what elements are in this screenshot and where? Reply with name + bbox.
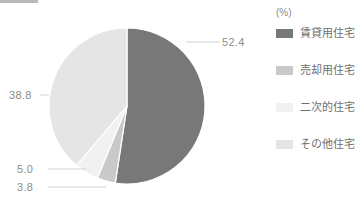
pie-chart-area: 52.4 38.8 5.0 3.8	[0, 0, 265, 201]
legend-label-rental: 賃貸用住宅	[300, 28, 355, 39]
legend-unit-label: (%)	[276, 7, 292, 18]
value-label-for-sale: 3.8	[17, 181, 33, 193]
legend-item-rental[interactable]: 賃貸用住宅	[276, 26, 355, 40]
legend-label-secondary: 二次的住宅	[300, 102, 355, 113]
legend-swatch-other	[276, 140, 293, 149]
legend-item-secondary[interactable]: 二次的住宅	[276, 100, 355, 114]
value-label-other: 38.8	[9, 89, 32, 101]
chart-legend: (%) 賃貸用住宅 売却用住宅 二次的住宅 その他住宅	[272, 0, 363, 201]
legend-swatch-rental	[276, 29, 293, 38]
value-label-secondary: 5.0	[17, 163, 33, 175]
pie-slices	[49, 28, 205, 184]
legend-item-for-sale[interactable]: 売却用住宅	[276, 63, 355, 77]
legend-label-for-sale: 売却用住宅	[300, 65, 355, 76]
pie-chart-svg	[0, 0, 265, 201]
pie-slice-rental	[115, 28, 205, 184]
legend-item-other[interactable]: その他住宅	[276, 137, 355, 151]
value-label-rental: 52.4	[222, 36, 245, 48]
legend-label-other: その他住宅	[300, 139, 355, 150]
legend-swatch-secondary	[276, 103, 293, 112]
legend-swatch-for-sale	[276, 66, 293, 75]
